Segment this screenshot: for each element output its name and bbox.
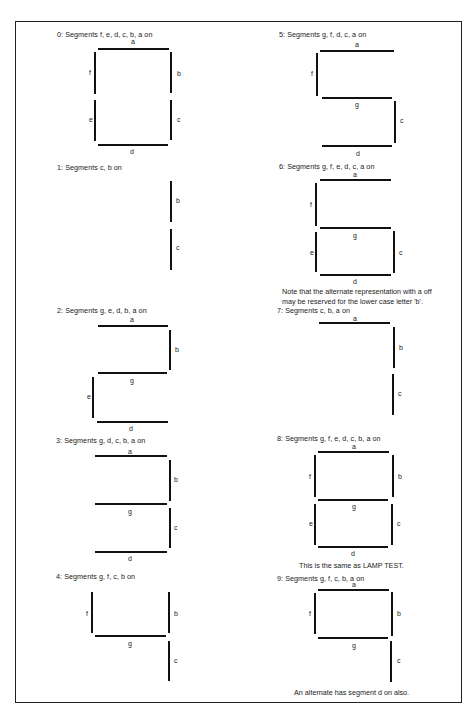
segment-c (169, 508, 171, 548)
segment-label-a: a (353, 315, 357, 323)
segment-label-a: a (128, 448, 132, 456)
segment-e (315, 232, 317, 272)
digit-note: may be reserved for the lower case lette… (282, 297, 423, 307)
digit-caption: 7: Segments c, b, a on (277, 306, 350, 315)
segment-label-c: c (174, 524, 178, 532)
segment-c (391, 504, 393, 545)
segment-e (92, 377, 94, 418)
segment-d (95, 551, 167, 553)
segment-a (320, 179, 391, 181)
segment-f (316, 53, 318, 96)
segment-label-e: e (310, 249, 314, 257)
segment-b (393, 327, 395, 368)
segment-label-a: a (130, 316, 134, 324)
digit-caption: 1: Segments c, b on (57, 163, 122, 172)
segment-g (318, 637, 388, 639)
segment-c (392, 374, 394, 415)
segment-f (315, 183, 317, 226)
segment-c (393, 231, 395, 273)
segment-a (98, 48, 169, 50)
segment-g (320, 227, 391, 229)
segment-a (318, 589, 389, 591)
digit-note: Note that the alternate representation w… (282, 287, 432, 297)
segment-label-c: c (177, 116, 181, 124)
segment-label-b: b (398, 473, 402, 481)
segment-label-f: f (309, 473, 311, 481)
segment-b (170, 181, 172, 222)
segment-f (91, 592, 93, 633)
digit-note: An alternate has segment d on also. (294, 688, 409, 698)
segment-a (98, 325, 168, 327)
segment-label-c: c (176, 244, 180, 252)
segment-label-g: g (128, 640, 132, 648)
segment-label-b: b (174, 476, 178, 484)
segment-label-c: c (174, 657, 178, 665)
segment-label-f: f (86, 610, 88, 618)
segment-f (314, 593, 316, 634)
segment-label-f: f (311, 70, 313, 78)
segment-a (320, 50, 394, 52)
segment-label-b: b (174, 610, 178, 618)
segment-label-a: a (352, 443, 356, 451)
segment-label-e: e (89, 116, 93, 124)
segment-g (95, 503, 167, 505)
segment-g (318, 499, 388, 501)
segment-label-a: a (353, 171, 357, 179)
segment-d (320, 274, 391, 276)
segment-label-g: g (355, 101, 359, 109)
segment-label-a: a (352, 581, 356, 589)
digit-caption: 8: Segments g, f, e, d, c, b, a on (277, 434, 381, 443)
segment-label-b: b (175, 346, 179, 354)
segment-c (394, 101, 396, 143)
segment-label-c: c (397, 520, 401, 528)
segment-label-d: d (356, 150, 360, 158)
segment-label-c: c (399, 249, 403, 257)
segment-label-c: c (398, 390, 402, 398)
segment-d (97, 421, 168, 423)
segment-g (322, 97, 392, 99)
segment-label-g: g (130, 377, 134, 385)
digit-caption: 3: Segments g, d, c, b, a on (56, 436, 145, 445)
segment-d (322, 145, 392, 147)
segment-f (314, 455, 316, 497)
segment-label-d: d (353, 278, 357, 286)
segment-f (94, 52, 96, 94)
segment-b (170, 52, 172, 93)
segment-label-d: d (128, 555, 132, 563)
segment-label-e: e (87, 393, 91, 401)
segment-e (314, 504, 316, 545)
digit-caption: 4: Segments g, f, c, b on (56, 572, 135, 581)
segment-b (169, 460, 171, 501)
digit-caption: 0: Segments f, e, d, c, b, a on (57, 30, 152, 39)
segment-c (390, 641, 392, 682)
segment-label-c: c (400, 117, 404, 125)
segment-label-f: f (309, 610, 311, 618)
digit-caption: 5: Segments g, f, d, c, a on (279, 30, 366, 39)
segment-label-g: g (352, 503, 356, 511)
segment-label-e: e (309, 520, 313, 528)
segment-label-c: c (397, 657, 401, 665)
segment-label-d: d (351, 550, 355, 558)
digit-note: This is the same as LAMP TEST. (299, 561, 404, 571)
segment-label-d: d (129, 425, 133, 433)
segment-b (168, 592, 170, 633)
segment-g (98, 372, 167, 374)
segment-label-g: g (353, 232, 357, 240)
segment-b (391, 592, 393, 636)
digit-caption: 6: Segments g, f, e, d, c, a on (279, 162, 374, 171)
segment-c (170, 229, 172, 270)
digit-caption: 2: Segments g, e, d, b, a on (57, 306, 147, 315)
segment-g (95, 635, 166, 637)
segment-label-b: b (399, 344, 403, 352)
segment-label-b: b (177, 70, 181, 78)
segment-label-b: b (176, 197, 180, 205)
segment-d (318, 546, 388, 548)
segment-label-b: b (397, 610, 401, 618)
segment-label-g: g (128, 508, 132, 516)
segment-c (170, 100, 172, 140)
segment-a (318, 451, 389, 453)
segment-label-d: d (130, 148, 134, 156)
segment-label-f: f (310, 201, 312, 209)
segment-label-g: g (352, 642, 356, 650)
segment-c (168, 641, 170, 681)
